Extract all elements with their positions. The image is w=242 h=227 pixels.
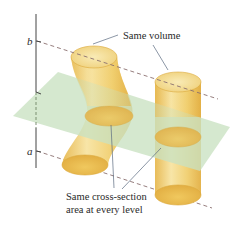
volume-by-slicing-diagram: b a Same volume Same cross-section area … — [0, 0, 242, 227]
leader-volume-right — [153, 45, 168, 70]
curved-cylinder-cross-section — [85, 106, 133, 126]
straight-cylinder-cross-section — [155, 127, 201, 147]
straight-cylinder-top-cap — [155, 72, 201, 92]
curved-cylinder-top-cap — [71, 46, 117, 68]
straight-cylinder-bottom-cap — [155, 185, 201, 205]
annotation-same-volume: Same volume — [123, 30, 181, 41]
tick-a — [36, 151, 41, 152]
leader-volume-left — [93, 35, 118, 44]
axis-label-b: b — [27, 35, 33, 47]
curved-cylinder-bottom-cap — [62, 155, 108, 175]
axis-label-a: a — [27, 145, 33, 157]
annotation-cross-section-line2: area at every level — [66, 204, 143, 215]
tick-b — [36, 41, 41, 42]
annotation-cross-section-line1: Same cross-section — [66, 191, 148, 202]
